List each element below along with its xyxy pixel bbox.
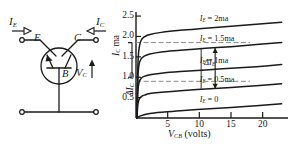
y-axis-title: IC ma [112,35,122,56]
collector-terminal-label: C [74,33,81,44]
terminal-emitter [20,38,25,43]
collector-internal [65,55,71,68]
emitter-current-label: IE [9,16,17,28]
y-tick-label: 2.5 [106,11,134,21]
characteristic-curves-chart: 0.51.01.52.02.5 5101520 IE = 2maIE = 1.5… [100,0,292,144]
delta-ie-label: ΔIE [204,58,215,68]
curve-label-0: IE = 2ma [200,15,229,23]
x-tick-label: 15 [222,120,240,130]
x-axis-title: VCB (volts) [168,129,211,140]
delta-ic-label: ΔIC [126,83,136,96]
base-terminal-label: B [62,69,68,80]
x-tick-label: 20 [254,120,272,130]
curve-label-3: IE = 0.5ma [200,76,235,84]
vc-arrow-icon [89,60,95,79]
x-tick-marks [168,112,263,118]
curve-label-1: IE = 1.5ma [200,35,235,43]
terminal-collector [94,38,99,43]
curve-4 [137,104,282,118]
curve-label-4: IE = 0 [200,96,219,104]
terminal-bottom-left [20,110,25,115]
vc-label: VC [76,68,87,79]
emitter-arrow-icon [46,55,53,62]
emitter-current-arrow-icon [12,28,31,35]
terminal-bottom-right [94,110,99,115]
figure-root: IE IC E C B VC 0.51.01.52.02.5 5101520 [0,0,292,144]
y-tick-label: 1.0 [106,72,134,82]
emitter-terminal-label: E [34,33,40,44]
curve-2 [137,65,282,118]
